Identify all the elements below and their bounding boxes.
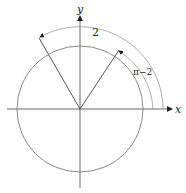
ray-angle-2 [39,38,80,109]
angle-pi-minus-2-label: π−2 [133,67,152,77]
angle-2-label: 2 [92,26,99,39]
ray-angle-pi-minus-2 [80,50,119,109]
y-axis-label: y [76,3,84,16]
diagram-canvas: y x 2 π−2 [0,0,186,193]
x-axis-label: x [175,103,182,116]
